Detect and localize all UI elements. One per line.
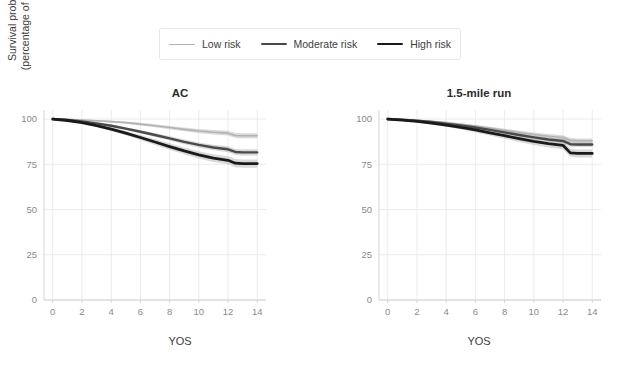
svg-text:4: 4: [444, 306, 449, 317]
svg-text:0: 0: [385, 306, 390, 317]
svg-text:0: 0: [367, 294, 372, 305]
legend-label-high-risk: High risk: [410, 38, 451, 50]
panel-run: 1.5-mile run 025507510002468101214 YOS: [345, 84, 613, 354]
svg-text:12: 12: [223, 306, 234, 317]
svg-text:10: 10: [194, 306, 205, 317]
panel-title-ac: AC: [10, 84, 350, 102]
svg-text:8: 8: [502, 306, 507, 317]
svg-text:6: 6: [138, 306, 143, 317]
svg-text:2: 2: [414, 306, 419, 317]
svg-text:50: 50: [26, 204, 37, 215]
svg-text:4: 4: [109, 306, 114, 317]
svg-text:25: 25: [361, 249, 372, 260]
panel-title-run: 1.5-mile run: [345, 84, 613, 102]
panel-ac: AC 025507510002468101214 YOS: [10, 84, 350, 354]
svg-text:50: 50: [361, 204, 372, 215]
legend-swatch-low-risk: [169, 44, 195, 45]
svg-text:100: 100: [21, 113, 37, 124]
x-axis-label-run: YOS: [345, 335, 613, 347]
svg-text:0: 0: [32, 294, 37, 305]
legend-label-low-risk: Low risk: [202, 38, 241, 50]
plot-area-ac: 025507510002468101214: [10, 102, 350, 334]
svg-text:14: 14: [252, 306, 263, 317]
chart-legend: Low risk Moderate risk High risk: [159, 28, 461, 60]
svg-text:8: 8: [167, 306, 172, 317]
legend-item-moderate-risk: Moderate risk: [261, 38, 358, 50]
legend-item-low-risk: Low risk: [169, 38, 241, 50]
svg-text:75: 75: [26, 159, 37, 170]
legend-item-high-risk: High risk: [377, 38, 451, 50]
svg-text:0: 0: [50, 306, 55, 317]
plot-area-run: 025507510002468101214: [345, 102, 613, 334]
svg-text:10: 10: [529, 306, 540, 317]
svg-text:14: 14: [587, 306, 598, 317]
svg-text:2: 2: [79, 306, 84, 317]
svg-text:6: 6: [473, 306, 478, 317]
legend-swatch-moderate-risk: [261, 43, 287, 45]
legend-label-moderate-risk: Moderate risk: [294, 38, 358, 50]
legend-swatch-high-risk: [377, 43, 403, 45]
svg-text:12: 12: [558, 306, 569, 317]
x-axis-label-ac: YOS: [10, 335, 350, 347]
svg-text:25: 25: [26, 249, 37, 260]
svg-text:100: 100: [356, 113, 372, 124]
svg-text:75: 75: [361, 159, 372, 170]
